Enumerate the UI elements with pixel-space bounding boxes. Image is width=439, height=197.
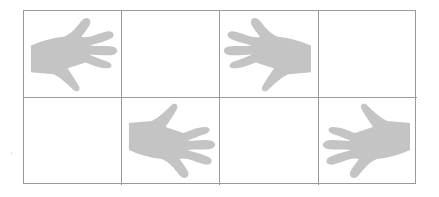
cell-r2-c2 [122, 98, 220, 185]
cell-r2-c1 [24, 98, 122, 185]
cell-r2-c4 [319, 98, 417, 185]
scan-artifact [11, 152, 12, 155]
hand-icon [122, 98, 219, 185]
cell-r1-c4 [319, 11, 417, 98]
cell-r1-c3 [220, 11, 319, 98]
hand-icon [220, 11, 318, 97]
cell-r2-c3 [220, 98, 319, 185]
cell-r1-c1 [24, 11, 122, 98]
hand-icon [319, 98, 417, 185]
hands-grid [23, 10, 416, 184]
hand-icon [24, 11, 121, 97]
cell-r1-c2 [122, 11, 220, 98]
